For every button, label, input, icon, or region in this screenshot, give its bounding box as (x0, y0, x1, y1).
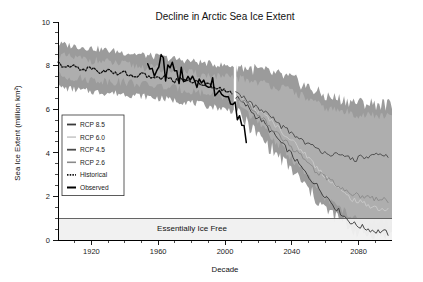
legend-label-rcp-6-0[interactable]: RCP 6.0 (80, 134, 105, 141)
legend-label-rcp-2-6[interactable]: RCP 2.6 (80, 159, 105, 166)
x-tick-label: 2080 (350, 247, 367, 256)
x-tick-label: 2040 (283, 247, 300, 256)
ice-free-band-label: Essentially Ice Free (157, 224, 227, 233)
y-tick-label: 0 (46, 236, 50, 245)
scenario-split-gap (234, 22, 236, 218)
y-tick-label: 4 (46, 149, 50, 158)
x-tick-label: 1920 (83, 247, 100, 256)
legend-label-rcp-8-5[interactable]: RCP 8.5 (80, 121, 105, 128)
chart-figure: Decline in Arctic Sea Ice Extent Essenti… (0, 0, 423, 282)
chart-legend[interactable]: RCP 8.5RCP 6.0RCP 4.5RCP 2.6HistoricalOb… (62, 115, 124, 196)
legend-label-observed[interactable]: Observed (80, 184, 109, 191)
x-axis-title: Decade (212, 265, 239, 274)
y-axis-title: Sea Ice Extent (million km²) (13, 85, 22, 181)
y-tick-label: 2 (46, 192, 50, 201)
y-tick-label: 8 (46, 61, 50, 70)
y-tick-label: 6 (46, 105, 50, 114)
legend-label-historical[interactable]: Historical (80, 171, 108, 178)
x-tick-label: 1960 (150, 247, 167, 256)
chart-title: Decline in Arctic Sea Ice Extent (156, 11, 295, 22)
x-tick-label: 2000 (217, 247, 234, 256)
arctic-sea-ice-chart: Decline in Arctic Sea Ice Extent Essenti… (0, 0, 423, 282)
legend-label-rcp-4-5[interactable]: RCP 4.5 (80, 146, 105, 153)
y-tick-label: 10 (42, 18, 50, 27)
